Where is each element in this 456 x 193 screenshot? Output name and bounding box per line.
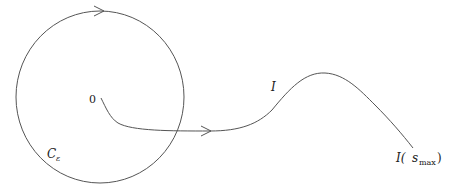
path-label: I bbox=[270, 80, 276, 94]
contour-diagram: 0 I C ε I( s max ) bbox=[0, 0, 456, 193]
endpoint-label: I( s max ) bbox=[395, 151, 442, 167]
circle-label-main: C bbox=[47, 147, 56, 161]
circle-label: C ε bbox=[47, 147, 60, 163]
endpoint-label-close: ) bbox=[437, 151, 442, 165]
path-curve bbox=[101, 73, 413, 148]
origin-label: 0 bbox=[89, 93, 96, 106]
endpoint-label-s: s bbox=[412, 151, 418, 165]
endpoint-label-sub: max bbox=[419, 158, 436, 167]
endpoint-label-main: I( bbox=[395, 151, 406, 165]
circle-label-sub: ε bbox=[56, 154, 60, 163]
circle-contour bbox=[16, 11, 184, 183]
